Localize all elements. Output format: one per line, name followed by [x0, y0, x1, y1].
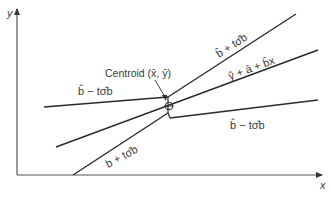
- upper-left-line-label: b̂ − tσ̂b: [78, 84, 113, 97]
- fitted-line-label: ŷ + â + b̂x: [226, 53, 276, 82]
- centroid-label: Centroid (x̄, ȳ): [105, 67, 171, 79]
- diagram-canvas: y x Centroid (x̄, ȳ) b̂ − tσ̂b b̂ + tσ̂b…: [0, 0, 331, 197]
- upper-right-band-line: [168, 14, 296, 97]
- regression-diagram: y x Centroid (x̄, ȳ) b̂ − tσ̂b b̂ + tσ̂b…: [0, 0, 331, 197]
- upper-right-line-label: b̂ + tσ̂b: [213, 30, 249, 60]
- fitted-regression-line: [56, 50, 318, 147]
- centroid-pointer: [155, 80, 165, 97]
- x-axis-label: x: [319, 179, 326, 191]
- upper-left-band-line: [44, 97, 168, 107]
- y-axis-label: y: [6, 7, 14, 19]
- lower-right-band-line: [170, 100, 318, 118]
- centroid-connector-lower: [168, 113, 170, 118]
- lower-left-line-label: b + tσ̂b: [103, 143, 139, 170]
- lower-left-band-line: [73, 113, 168, 175]
- lower-right-line-label: b̂ − tσ̂b: [230, 118, 265, 131]
